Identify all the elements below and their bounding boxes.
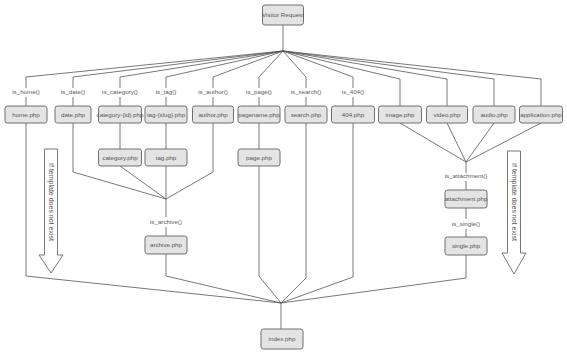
node-label: index.php [269,335,296,342]
edge-to-pagename-php [259,51,283,88]
node-category-php: category.php [99,149,142,166]
condition-is-category: is_category() [102,88,138,95]
fallback-arrow-left: If template does not exist [39,149,63,273]
edge-to-audio-php [283,51,494,106]
node-category-id-php: category-{id}.php [97,106,144,123]
fallback-note: If template does not exist [510,163,518,241]
node-label: archive.php [150,241,183,248]
condition-is-home: is_home() [12,88,40,95]
node-pagename-php: pagename.php [238,106,280,123]
node-label: category-{id}.php [97,111,144,118]
edge-to-search-php [283,51,306,88]
node-application-php: application.php [520,106,563,123]
node-label: category.php [102,154,138,161]
fallback-note: If template does not exist [47,163,55,241]
edge-to-404-php [283,51,353,88]
edge-audio-php-attachment [466,123,494,162]
condition-is-author: is_author() [198,88,228,95]
node-home-php: home.php [5,106,47,123]
condition-is-404: is_404() [342,88,364,95]
node-label: attachment.php [445,195,488,202]
edge-application-php-attachment [466,123,541,162]
node-single-php: single.php [445,237,487,255]
edge-to-date-php [73,51,283,88]
node-tag-php: tag.php [145,149,187,166]
node-label: audio.php [480,111,508,118]
edge-404-index [281,123,353,303]
edge-single-index [281,255,466,303]
edge-category-archive [120,166,166,199]
edge-archive-index [166,254,281,303]
node-tag-slug-php: tag-{slug}.php [145,106,187,123]
node-attachment-php: attachment.php [445,190,488,208]
edge-search-index [281,123,306,303]
node-label: page.php [246,154,272,161]
node-visitor-request: Visitor Request [262,5,304,25]
node-label: home.php [12,111,40,118]
condition-is-attachment: is_attachment() [445,172,488,179]
condition-is-tag: is_tag() [156,88,177,95]
node-label: author.php [198,111,228,118]
edge-to-video-php [283,51,447,106]
condition-is-search: is_search() [291,88,322,95]
node-image-php: image.php [379,106,422,123]
edge-to-home-php [26,51,283,88]
node-label: tag-{slug}.php [147,111,186,118]
node-video-php: video.php [427,106,468,123]
node-label: Visitor Request [262,11,304,18]
node-label: application.php [520,111,562,118]
node-label: tag.php [156,154,177,161]
node-label: 404.php [342,111,365,118]
condition-is-archive: is_archive() [150,218,182,225]
node-author-php: author.php [193,106,234,123]
template-hierarchy-diagram: If template does not existIf template do… [0,0,567,358]
fallback-arrow-right: If template does not exist [502,151,526,274]
condition-is-page: is_page() [246,88,272,95]
edge-page-index [259,166,281,303]
node-archive-php: archive.php [145,236,187,254]
condition-is-single: is_single() [452,220,480,227]
node-page-php: page.php [238,149,280,166]
condition-is-date: is_date() [61,88,85,95]
node-audio-php: audio.php [473,106,515,123]
edge-to-application-php [283,51,541,106]
node-index-php: index.php [261,329,303,349]
edge-to-image-php [283,51,400,106]
node-search-php: search.php [285,106,327,123]
node-label: single.php [452,242,481,249]
node-404-php: 404.php [332,106,375,123]
node-label: video.php [434,111,461,118]
node-label: image.php [386,111,415,118]
node-date-php: date.php [55,106,91,123]
node-label: date.php [61,111,86,118]
node-label: pagename.php [238,111,280,118]
node-label: search.php [291,111,322,118]
